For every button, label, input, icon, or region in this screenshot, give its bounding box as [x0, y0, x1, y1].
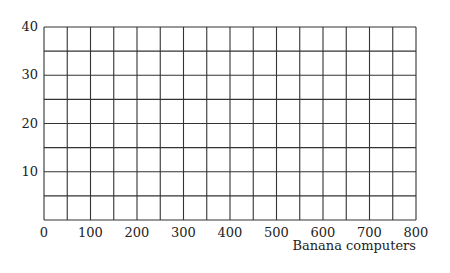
x-tick-label: 0	[40, 225, 48, 240]
x-tick-label: 300	[171, 225, 196, 240]
x-tick-label: 400	[218, 225, 243, 240]
y-tick-label: 40	[21, 19, 38, 34]
y-tick-label: 10	[21, 164, 38, 179]
x-axis-label: Banana computers	[292, 238, 416, 253]
y-axis-tick-labels: 10203040	[21, 19, 38, 179]
x-tick-label: 500	[264, 225, 289, 240]
grid-lines	[44, 27, 416, 220]
y-tick-label: 20	[21, 116, 38, 131]
x-tick-label: 100	[78, 225, 103, 240]
chart: 0100200300400500600700800 10203040 Banan…	[0, 0, 450, 273]
x-tick-label: 200	[125, 225, 150, 240]
y-tick-label: 30	[21, 67, 38, 82]
